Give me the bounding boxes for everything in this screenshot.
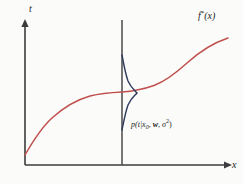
density-label-close: ) <box>169 120 172 129</box>
y-axis-arrowhead-icon <box>21 19 28 27</box>
x-axis-label: x <box>232 160 236 170</box>
y-axis-label: t <box>29 4 32 14</box>
density-label-head: p(t|x <box>131 120 146 129</box>
x-axis-arrowhead-icon <box>224 161 232 168</box>
curve-label-arg: (x) <box>204 10 215 21</box>
regression-figure: t x f*(x) p(t|x0, w, σ2) <box>0 0 243 184</box>
density-label: p(t|x0, w, σ2) <box>131 118 172 130</box>
figure-canvas <box>0 0 243 184</box>
curve-label-f-star: f*(x) <box>198 10 215 21</box>
mean-function-curve <box>25 38 228 155</box>
